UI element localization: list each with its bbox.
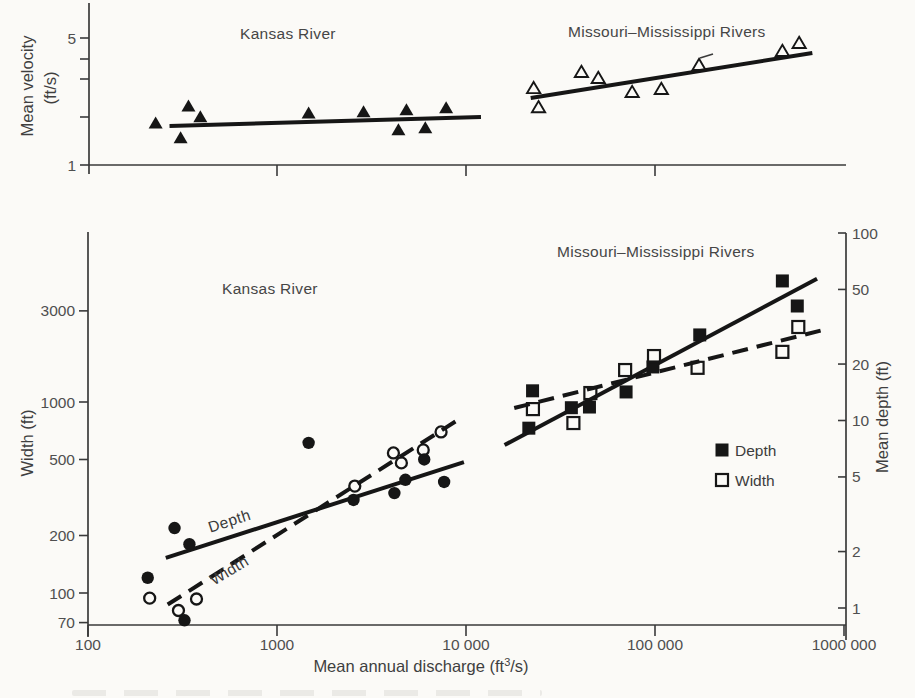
hydraulic-geometry-figure: 51Mean velocity(ft/s)Kansas RiverMissour… <box>0 0 915 698</box>
missouri-depth-point <box>526 384 539 397</box>
x-axis-label: Mean annual discharge (ft3/s) <box>313 656 528 675</box>
kansas-velocity-point <box>181 99 195 111</box>
left-y-tick-label: 200 <box>49 527 75 544</box>
kansas-width-point <box>349 481 360 492</box>
kansas-depth-point <box>399 474 411 486</box>
legend-width-marker <box>716 474 728 486</box>
x-tick-label: 1000 <box>260 636 295 653</box>
kansas-depth-point <box>388 487 400 499</box>
missouri-velocity-point <box>527 82 540 93</box>
kansas-width-point <box>436 426 447 437</box>
missouri-depth-point <box>522 422 535 435</box>
missouri-velocity-fit <box>531 53 813 98</box>
depth-axis-label: Mean depth (ft) <box>873 361 891 473</box>
x-tick-label: 100 <box>75 636 101 653</box>
missouri-velocity-point <box>592 72 605 83</box>
right-y-tick-label: 1 <box>852 600 861 617</box>
wd-missouri-label: Missouri–Mississippi Rivers <box>557 243 755 260</box>
kansas-velocity-point <box>302 107 316 119</box>
top-y-axis-unit: (ft/s) <box>41 72 59 105</box>
stray-mark <box>700 54 713 58</box>
kansas-velocity-fit <box>170 117 481 126</box>
kansas-depth-point <box>183 538 195 550</box>
right-y-tick-label: 20 <box>852 356 870 373</box>
x-tick-label: 1000 000 <box>812 636 877 653</box>
top-y-axis-label: Mean velocity <box>18 35 36 137</box>
legend-depth-label: Depth <box>735 442 776 459</box>
velocity-missouri-label: Missouri–Mississippi Rivers <box>568 23 766 40</box>
missouri-width-point <box>567 417 579 429</box>
legend-width-label: Width <box>735 472 775 489</box>
kansas-width-point <box>144 593 155 604</box>
missouri-velocity-point <box>532 101 545 112</box>
missouri-depth-point <box>791 300 804 313</box>
missouri-depth-point <box>565 401 578 414</box>
kansas-width-point <box>388 447 399 458</box>
right-y-tick-label: 10 <box>852 412 870 429</box>
kansas-velocity-point <box>399 103 413 115</box>
missouri-velocity-point <box>776 45 789 56</box>
kansas-depth-point <box>347 494 359 506</box>
kansas-velocity-point <box>439 101 453 113</box>
kansas-width-point <box>173 605 184 616</box>
wd-kansas-label: Kansas River <box>222 280 318 297</box>
kansas-velocity-point <box>193 110 207 122</box>
width-axis-label: Width (ft) <box>18 410 36 477</box>
missouri-velocity-point <box>575 66 588 77</box>
top-y-tick-label: 5 <box>67 30 76 47</box>
kansas-velocity-point <box>174 131 188 143</box>
width-line-label: Width <box>207 552 252 588</box>
missouri-depth-point <box>693 328 706 341</box>
kansas-depth-fit <box>166 462 464 558</box>
kansas-velocity-point <box>149 117 163 129</box>
missouri-velocity-point <box>655 83 668 94</box>
missouri-depth-point <box>583 401 596 414</box>
missouri-width-point <box>776 346 788 358</box>
left-y-tick-label: 500 <box>49 451 75 468</box>
left-y-tick-label: 100 <box>49 585 75 602</box>
missouri-velocity-point <box>793 37 806 48</box>
right-y-tick-label: 100 <box>852 225 878 242</box>
figure-page: 51Mean velocity(ft/s)Kansas RiverMissour… <box>0 0 915 698</box>
kansas-depth-point <box>302 437 314 449</box>
legend-depth-marker <box>716 444 729 457</box>
missouri-width-fit <box>514 330 822 408</box>
missouri-depth-point <box>776 274 789 287</box>
kansas-depth-point <box>168 522 180 534</box>
x-tick-label: 10 000 <box>442 636 490 653</box>
right-y-tick-label: 50 <box>852 281 870 298</box>
left-y-tick-label: 1000 <box>41 394 76 411</box>
velocity-kansas-label: Kansas River <box>240 25 336 42</box>
kansas-velocity-point <box>357 105 371 117</box>
kansas-width-point <box>191 594 202 605</box>
left-y-tick-label: 70 <box>58 614 76 631</box>
kansas-width-point <box>396 457 407 468</box>
right-y-tick-label: 2 <box>852 543 861 560</box>
missouri-width-point <box>619 364 631 376</box>
kansas-depth-point <box>438 476 450 488</box>
right-y-tick-label: 5 <box>852 468 861 485</box>
kansas-velocity-point <box>418 121 432 133</box>
missouri-velocity-point <box>692 59 705 70</box>
missouri-velocity-point <box>626 86 639 97</box>
kansas-velocity-point <box>391 123 405 135</box>
left-y-tick-label: 3000 <box>41 302 76 319</box>
missouri-width-point <box>792 321 804 333</box>
cropped-caption-remnant <box>72 690 542 696</box>
missouri-width-point <box>648 350 660 362</box>
missouri-depth-point <box>620 385 633 398</box>
x-tick-label: 100 000 <box>627 636 683 653</box>
top-y-tick-label: 1 <box>67 157 76 174</box>
kansas-depth-point <box>142 572 154 584</box>
